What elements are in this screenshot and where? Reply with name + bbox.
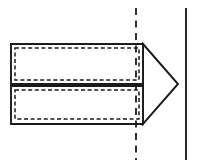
upper-panel-outline bbox=[11, 44, 143, 84]
technical-drawing-figure bbox=[0, 0, 198, 167]
figure-canvas bbox=[0, 0, 198, 167]
